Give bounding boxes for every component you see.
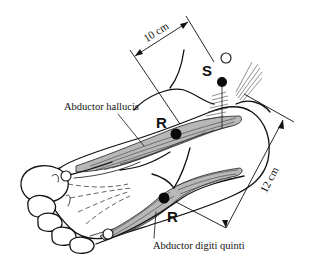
recording-electrode-abductor-hallucis [171,129,182,140]
recording-label-upper: R [156,114,167,131]
recording-label-lower: R [167,208,178,225]
stimulating-electrode [217,77,227,87]
foot-electrode-diagram: 10 cm 12 cm S R R Abductor hallucis Abdu… [0,0,310,265]
ground-electrode [221,53,231,63]
label-abductor-hallucis: Abductor hallucis [64,101,139,112]
label-abductor-digiti-quinti: Abductor digiti quinti [153,240,245,251]
measurement-10cm-label: 10 cm [141,19,171,44]
foot-outline [21,107,269,254]
stimulation-label: S [202,62,212,79]
reference-electrode-fifth-mtp [103,229,113,239]
ankle-outline [134,50,270,112]
reference-electrode-first-mtp [61,171,71,181]
recording-electrode-abductor-digiti-quinti [159,193,170,204]
label-abductor-hallucis-group: Abductor hallucis [64,101,144,146]
